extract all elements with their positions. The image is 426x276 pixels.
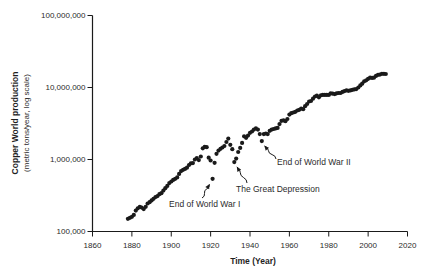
x-tick-label: 1940 bbox=[241, 241, 259, 250]
y-tick-label: 1,000,000 bbox=[50, 155, 86, 164]
x-axis-title: Time (Year) bbox=[193, 256, 313, 266]
data-point bbox=[132, 213, 136, 217]
data-point bbox=[230, 147, 234, 151]
data-point bbox=[209, 158, 213, 162]
data-point bbox=[197, 158, 201, 162]
x-tick-label: 1900 bbox=[162, 241, 180, 250]
copper-production-chart: 100,000,00010,000,0001,000,000100,000186… bbox=[0, 0, 426, 276]
data-point bbox=[384, 72, 388, 76]
y-axis-title: Copper World production (metric tons/yea… bbox=[10, 23, 32, 223]
data-point bbox=[276, 126, 280, 130]
x-tick-label: 1880 bbox=[123, 241, 141, 250]
data-point bbox=[256, 128, 260, 132]
chart-canvas: 100,000,00010,000,0001,000,000100,000186… bbox=[0, 0, 426, 276]
data-point bbox=[240, 141, 244, 145]
data-point bbox=[191, 161, 195, 165]
axes bbox=[93, 16, 408, 232]
data-point bbox=[258, 132, 262, 136]
data-point bbox=[238, 146, 242, 150]
data-point bbox=[205, 145, 209, 149]
x-tick-label: 1860 bbox=[84, 241, 102, 250]
data-point bbox=[199, 154, 203, 158]
y-tick-label: 100,000,000 bbox=[41, 11, 86, 20]
annotation-end-of-wwii: End of World War II bbox=[277, 157, 351, 167]
data-point bbox=[211, 177, 215, 181]
annotation-end-of-wwi: End of World War I bbox=[169, 199, 240, 209]
x-tick-label: 2000 bbox=[359, 241, 377, 250]
data-point bbox=[234, 157, 238, 161]
x-tick-label: 1920 bbox=[202, 241, 220, 250]
x-tick-label: 1980 bbox=[320, 241, 338, 250]
data-point bbox=[228, 143, 232, 147]
data-point bbox=[236, 150, 240, 154]
x-tick-label: 2020 bbox=[399, 241, 417, 250]
y-axis-title-main: Copper World production bbox=[10, 23, 21, 223]
data-point bbox=[285, 117, 289, 121]
y-axis-title-sub: (metric tons/year, log scale) bbox=[21, 23, 32, 223]
x-tick-label: 1960 bbox=[280, 241, 298, 250]
data-point bbox=[213, 161, 217, 165]
y-tick-label: 100,000 bbox=[57, 227, 86, 236]
y-tick-label: 10,000,000 bbox=[45, 83, 86, 92]
data-point bbox=[222, 144, 226, 148]
data-point bbox=[226, 137, 230, 141]
data-point bbox=[260, 139, 264, 143]
annotation-great-depression: The Great Depression bbox=[236, 184, 320, 194]
